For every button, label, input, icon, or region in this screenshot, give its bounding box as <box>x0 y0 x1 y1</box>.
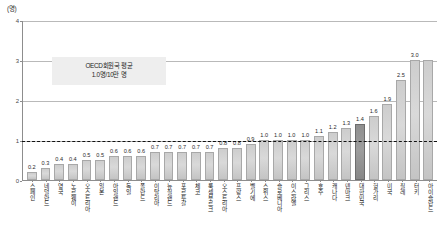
bar-slot: 1.0 <box>257 21 271 180</box>
x-label-slot: 캐나다 <box>326 182 340 235</box>
bar[interactable] <box>123 156 133 180</box>
bar[interactable] <box>246 144 256 180</box>
bar-slot: 1.3 <box>339 21 353 180</box>
x-axis-label: 일본 <box>97 183 103 195</box>
bar[interactable] <box>355 124 365 180</box>
x-axis-label: 영국 <box>56 183 62 195</box>
bar-slot: 0.9 <box>244 21 258 180</box>
x-axis-label: 슬로베니아 <box>276 183 282 212</box>
bar-value-label: 0.4 <box>69 157 77 163</box>
bar[interactable] <box>41 168 51 180</box>
x-axis-label: 이탈리아 <box>152 183 158 206</box>
x-label-slot: 폴란드 <box>135 182 149 235</box>
x-label-slot: 스페인 <box>25 182 39 235</box>
bar-slot: 0.6 <box>134 21 148 180</box>
bar[interactable] <box>164 152 174 180</box>
bar[interactable] <box>68 164 78 180</box>
bar[interactable] <box>410 60 420 180</box>
bar[interactable] <box>191 152 201 180</box>
bar[interactable] <box>232 148 242 180</box>
plot-area: 01234 0.20.30.40.40.50.50.60.60.60.70.70… <box>22 21 437 181</box>
bar-slot <box>421 21 435 180</box>
bar[interactable] <box>341 128 351 180</box>
x-axis-label: 아일랜드 <box>111 183 117 206</box>
x-axis-label: 벨기에 <box>248 183 254 200</box>
bar[interactable] <box>95 160 105 180</box>
bar[interactable] <box>259 140 269 180</box>
bar-series: 0.20.30.40.40.50.50.60.60.60.70.70.70.70… <box>23 21 437 180</box>
bar-value-label: 1.4 <box>356 117 364 123</box>
bar-slot: 1.0 <box>298 21 312 180</box>
y-tick-label: 1 <box>16 138 19 144</box>
bar[interactable] <box>328 132 338 180</box>
bar[interactable] <box>27 172 37 180</box>
bar-value-label: 1.3 <box>342 121 350 127</box>
bar-slot: 1.9 <box>380 21 394 180</box>
bar[interactable] <box>82 160 92 180</box>
x-axis-label: 미국 <box>385 183 391 195</box>
bar[interactable] <box>205 152 215 180</box>
y-tick-label: 4 <box>16 18 19 24</box>
x-tick-mark <box>196 180 197 182</box>
x-axis-label: 헝가리 <box>371 183 377 200</box>
bar[interactable] <box>136 156 146 180</box>
bar[interactable] <box>369 116 379 180</box>
bar[interactable] <box>396 80 406 180</box>
bar[interactable] <box>314 136 324 180</box>
bar-chart: (명) 01234 0.20.30.40.40.50.50.60.60.60.7… <box>0 0 443 235</box>
y-tick-label: 2 <box>16 98 19 104</box>
x-tick-mark <box>100 180 101 182</box>
x-tick-mark <box>169 180 170 182</box>
bar-slot: 2.5 <box>394 21 408 180</box>
bar-value-label: 1.2 <box>329 125 337 131</box>
bar[interactable] <box>382 104 392 180</box>
x-axis-label: 네덜란드 <box>43 183 49 206</box>
x-tick-mark <box>306 180 307 182</box>
bar-value-label: 0.7 <box>151 145 159 151</box>
bar[interactable] <box>150 152 160 180</box>
x-tick-mark <box>114 180 115 182</box>
bar-slot: 1.2 <box>326 21 340 180</box>
x-tick-mark <box>265 180 266 182</box>
bar-value-label: 0.5 <box>96 153 104 159</box>
x-axis-label: 포르투갈 <box>180 183 186 206</box>
bar[interactable] <box>273 140 283 180</box>
bar[interactable] <box>218 148 228 180</box>
bar-slot: 0.7 <box>148 21 162 180</box>
x-label-slot: 체코 <box>189 182 203 235</box>
x-label-slot: 아이슬란드 <box>422 182 436 235</box>
bar-slot: 1.0 <box>271 21 285 180</box>
bar[interactable] <box>109 156 119 180</box>
x-axis-label: 스위스 <box>262 183 268 200</box>
oecd-average-annotation: OECD회원국 평균 1.0명/10만 명 <box>52 57 166 85</box>
bar-slot: 0.7 <box>203 21 217 180</box>
bar-slot: 0.7 <box>189 21 203 180</box>
bar-value-label: 0.6 <box>124 149 132 155</box>
x-label-slot: 오스트리아 <box>80 182 94 235</box>
bar[interactable] <box>287 140 297 180</box>
x-label-slot: 호주 <box>313 182 327 235</box>
x-tick-mark <box>388 180 389 182</box>
bar[interactable] <box>423 60 433 180</box>
y-axis-unit-label: (명) <box>7 3 16 13</box>
x-label-slot: 대한민국 <box>354 182 368 235</box>
x-tick-mark <box>320 180 321 182</box>
bar-slot: 1.0 <box>285 21 299 180</box>
x-label-slot: 헝가리 <box>368 182 382 235</box>
x-axis-label: 캐나다 <box>330 183 336 200</box>
x-label-slot: 벨기에 <box>244 182 258 235</box>
x-tick-mark <box>183 180 184 182</box>
x-tick-mark <box>87 180 88 182</box>
bar[interactable] <box>54 164 64 180</box>
bar-value-label: 0.6 <box>137 149 145 155</box>
bar-value-label: 0.7 <box>165 145 173 151</box>
x-label-slot: 터키 <box>409 182 423 235</box>
bar-slot: 1.6 <box>367 21 381 180</box>
bar[interactable] <box>300 140 310 180</box>
bar-slot: 0.2 <box>25 21 39 180</box>
x-label-slot: 미국 <box>381 182 395 235</box>
x-axis-label: 스페인 <box>29 183 35 200</box>
x-axis-label: 덴마크 <box>344 183 350 200</box>
bar[interactable] <box>177 152 187 180</box>
x-label-slot: 덴마크 <box>340 182 354 235</box>
